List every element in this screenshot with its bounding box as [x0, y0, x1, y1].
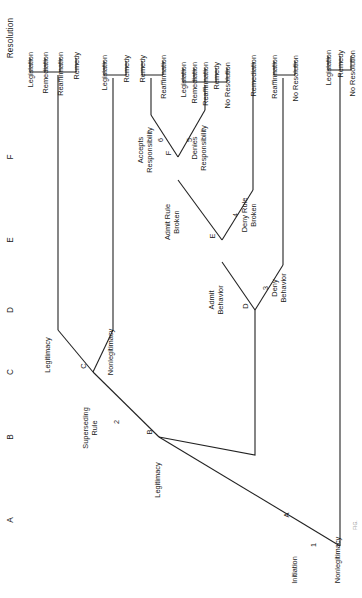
outcome-label-g6-0: Reaffirmation	[270, 55, 279, 99]
decision-number-4: 4	[231, 213, 240, 217]
node-label-F: F	[164, 150, 173, 155]
outcome-label-g7-2: No Resolution	[348, 50, 357, 96]
outcome-label-g1-0: Legislation	[26, 52, 35, 87]
decision-number-6: 6	[156, 138, 165, 142]
outcome-label-g3-0: Remedy	[138, 55, 147, 83]
column-header-F: F	[6, 154, 15, 159]
branch-labels: Initiation Legitimacy Nonlegitimacy Supe…	[43, 125, 342, 584]
branch-label-c-nonlegitimacy: Nonlegitimacy	[106, 328, 115, 375]
column-header-row: A B C D E F Resolution	[6, 17, 15, 522]
decision-number-3: 3	[261, 286, 270, 290]
node-label-B: B	[145, 429, 154, 434]
outcome-label-g4-4: No Resolution	[223, 62, 232, 108]
outcome-label-g4-0: Legislation	[179, 62, 188, 97]
edge-f-up	[151, 115, 178, 157]
node-label-E: E	[208, 233, 217, 238]
outcome-label-g7-1: Remedy	[336, 50, 345, 78]
node-label-C: C	[79, 363, 88, 369]
outcome-label-g2-1: Remedy	[122, 55, 131, 83]
branch-label-a-nonlegitimacy: Nonlegitimacy	[333, 536, 342, 583]
branch-label-b-superseding-rule-line1: Superseding	[81, 407, 90, 449]
branch-label-f-denies-responsibility-line2: Responsibility	[199, 125, 208, 171]
branch-label-initiation: Initiation	[290, 556, 299, 584]
outcome-label-g4-3: Remedy	[212, 62, 221, 90]
figure-caption: FIG.	[352, 520, 358, 530]
edge-b-to-c	[93, 372, 159, 437]
branch-label-a-legitimacy: Legitimacy	[153, 462, 162, 498]
branch-label-e-deny-rule-broken-line1: Deny Rule	[240, 198, 249, 233]
figure-canvas: A B C D E F Resolution	[0, 0, 362, 598]
outcome-label-g1-2: Reaffirmation	[56, 52, 65, 96]
decision-number-2: 2	[112, 420, 121, 424]
branch-label-d-deny-behavior-line2: Behavior	[279, 273, 288, 303]
node-label-D: D	[241, 303, 250, 308]
bracket-g1	[30, 58, 76, 72]
outcome-label-g2-0: Legislation	[100, 55, 109, 90]
outcome-label-g6-1: No Resolution	[291, 55, 300, 101]
column-header-C: C	[6, 369, 15, 375]
branch-label-d-deny-behavior-line1: Deny	[270, 279, 279, 297]
branch-label-b-superseding-rule-line2: Rule	[90, 420, 99, 435]
decision-numbers: 1 2 3 4 5 6	[112, 138, 318, 547]
branch-label-e-deny-rule-broken-line2: Broken	[249, 203, 258, 226]
edge-d-to-e	[222, 262, 255, 310]
branch-label-e-admit-rule-broken-line2: Broken	[172, 210, 181, 233]
outcome-label-g7-0: Legislation	[324, 50, 333, 85]
branch-label-c-legitimacy: Legitimacy	[43, 337, 52, 373]
branch-label-f-accepts-responsibility-line1: Accepts	[136, 137, 145, 164]
column-header-E: E	[6, 237, 15, 243]
decision-tree-diagram: A B C D E F Resolution	[0, 0, 362, 598]
branch-label-d-admit-behavior-line1: Admit	[207, 291, 216, 310]
outcome-label-g4-1: Remediation	[190, 62, 199, 104]
outcome-label-g4-2: Reaffirmation	[201, 62, 210, 106]
edge-b-to-d	[159, 310, 255, 455]
column-header-A: A	[6, 517, 15, 523]
outcome-label-g1-3: Remedy	[72, 52, 81, 80]
outcome-label-g1-1: Remediation	[41, 52, 50, 94]
branch-label-f-accepts-responsibility-line2: Responsibility	[145, 127, 154, 173]
outcome-labels: Legislation Remediation Reaffirmation Re…	[26, 50, 357, 109]
column-header-D: D	[6, 307, 15, 313]
outcome-label-g3-1: Reaffirmation	[159, 55, 168, 99]
decision-number-1: 1	[309, 543, 318, 547]
node-label-A: A	[282, 512, 291, 517]
branch-label-f-denies-responsibility-line1: Denies	[190, 136, 199, 159]
column-header-resolution: Resolution	[6, 17, 15, 58]
edge-e-to-f	[178, 180, 222, 240]
branch-label-e-admit-rule-broken-line1: Admit Rule	[163, 204, 172, 240]
branch-label-d-admit-behavior-line2: Behavior	[216, 285, 225, 315]
column-header-B: B	[6, 434, 15, 440]
outcome-label-g5-0: Remediation	[249, 55, 258, 97]
